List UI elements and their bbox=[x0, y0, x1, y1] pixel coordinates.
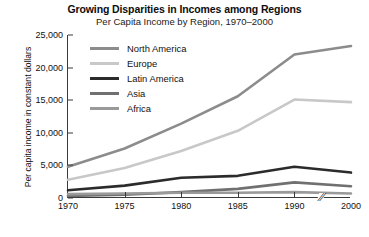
y-tick-label: 20,000 bbox=[35, 63, 63, 73]
chart-subtitle: Per Capita Income by Region, 1970–2000 bbox=[0, 16, 369, 28]
legend-item-label: Europe bbox=[127, 58, 157, 69]
legend-item: Latin America bbox=[90, 71, 186, 86]
y-tick-mark bbox=[68, 100, 73, 101]
y-tick-label: 25,000 bbox=[35, 30, 63, 40]
y-tick-label: 10,000 bbox=[35, 128, 63, 138]
chart-figure: Growing Disparities in Incomes among Reg… bbox=[0, 0, 369, 237]
x-tick-label: 1980 bbox=[171, 201, 191, 211]
x-tick-label: 2000 bbox=[341, 201, 361, 211]
legend-item: Africa bbox=[90, 101, 186, 116]
y-tick-mark bbox=[68, 198, 73, 199]
x-tick-mark bbox=[125, 192, 126, 197]
legend: North AmericaEuropeLatin AmericaAsiaAfri… bbox=[90, 41, 186, 116]
x-tick-label: 1990 bbox=[284, 201, 304, 211]
legend-item: Europe bbox=[90, 56, 186, 71]
y-tick-label: 5,000 bbox=[40, 160, 63, 170]
y-tick-label: 15,000 bbox=[35, 95, 63, 105]
legend-swatch-icon bbox=[90, 92, 119, 95]
x-tick-label: 1975 bbox=[115, 201, 135, 211]
legend-item: Asia bbox=[90, 86, 186, 101]
legend-swatch-icon bbox=[90, 107, 119, 110]
legend-item-label: North America bbox=[127, 43, 186, 54]
x-tick-mark bbox=[294, 192, 295, 197]
y-tick-mark bbox=[68, 165, 73, 166]
x-tick-mark bbox=[181, 192, 182, 197]
page-title: Growing Disparities in Incomes among Reg… bbox=[0, 3, 369, 16]
x-tick-label: 1970 bbox=[58, 201, 78, 211]
y-tick-mark bbox=[68, 132, 73, 133]
legend-item: North America bbox=[90, 41, 186, 56]
legend-swatch-icon bbox=[90, 77, 119, 80]
x-tick-mark bbox=[238, 192, 239, 197]
legend-item-label: Asia bbox=[127, 88, 145, 99]
series-line bbox=[68, 192, 351, 194]
y-axis-label: Per capita income in constant dollars bbox=[23, 27, 33, 207]
legend-swatch-icon bbox=[90, 47, 119, 50]
legend-item-label: Africa bbox=[127, 103, 151, 114]
title-block: Growing Disparities in Incomes among Reg… bbox=[0, 3, 369, 28]
legend-swatch-icon bbox=[90, 62, 119, 65]
x-tick-label: 1985 bbox=[228, 201, 248, 211]
y-tick-mark bbox=[68, 67, 73, 68]
y-tick-mark bbox=[68, 35, 73, 36]
legend-item-label: Latin America bbox=[127, 73, 184, 84]
